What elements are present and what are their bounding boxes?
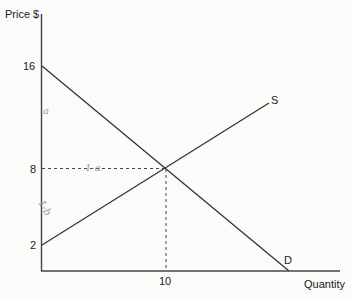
tick-label-8: 8: [30, 163, 36, 175]
tick-label-2: 2: [30, 239, 36, 251]
tick-label-10: 10: [159, 275, 171, 287]
handwritten-1-b: 1-b: [36, 198, 54, 217]
handwritten-a: a: [43, 105, 49, 116]
x-axis-label: Quantity: [304, 278, 345, 290]
y-axis-label: Price $: [5, 8, 39, 20]
supply-label: S: [271, 94, 278, 106]
supply-line: [42, 103, 269, 245]
tick-label-16: 16: [23, 60, 35, 72]
demand-label: D: [284, 254, 292, 266]
handwritten-1-a: 1-a: [85, 162, 101, 173]
supply-demand-chart: Price $ Quantity 16 8 2 10 S D a 1-a 1-b: [0, 0, 351, 299]
